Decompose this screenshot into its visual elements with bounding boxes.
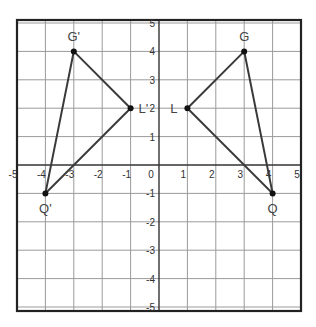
- vertex-label: G: [239, 29, 249, 44]
- y-tick-label: 5: [149, 18, 155, 29]
- vertex-dot: [270, 190, 276, 196]
- x-tick-label: 3: [237, 169, 243, 180]
- y-tick-label: -2: [146, 217, 155, 228]
- vertex-label: Q: [268, 201, 278, 216]
- y-tick-label: 1: [149, 132, 155, 143]
- x-tick-label: 5: [294, 169, 300, 180]
- y-tick-label: 4: [149, 46, 155, 57]
- x-tick-label: -2: [94, 169, 103, 180]
- x-tick-label: -4: [37, 169, 46, 180]
- vertex-dot: [184, 105, 190, 111]
- vertex-label: G': [68, 29, 81, 44]
- x-tick-label: -1: [122, 169, 131, 180]
- y-tick-label: -4: [146, 274, 155, 285]
- vertex-label: Q': [39, 201, 52, 216]
- vertex-dot: [42, 190, 48, 196]
- triangle-g-primel-primeq-prime: [45, 51, 130, 193]
- coordinate-plane: -5-4-3-2-101234554321-1-2-3-4-5 GLQG'L'Q…: [0, 0, 316, 327]
- vertex-dot: [241, 48, 247, 54]
- x-tick-label: -5: [9, 169, 18, 180]
- y-tick-label: 2: [149, 103, 155, 114]
- x-tick-label: 1: [181, 169, 187, 180]
- x-tick-label: 0: [148, 169, 154, 180]
- axes: [17, 20, 301, 311]
- triangle-glq: [187, 51, 272, 193]
- x-tick-label: 2: [209, 169, 215, 180]
- vertex-label: L': [139, 101, 149, 116]
- y-tick-label: -3: [146, 245, 155, 256]
- y-tick-label: 3: [149, 75, 155, 86]
- vertex-dot: [128, 105, 134, 111]
- y-tick-label: -5: [146, 302, 155, 313]
- y-tick-label: -1: [146, 188, 155, 199]
- vertex-dot: [71, 48, 77, 54]
- vertex-label: L: [170, 101, 177, 116]
